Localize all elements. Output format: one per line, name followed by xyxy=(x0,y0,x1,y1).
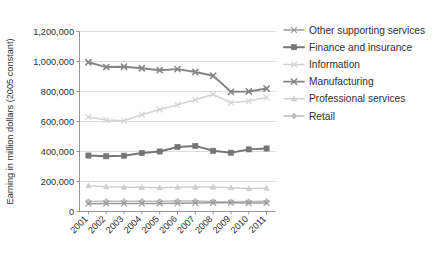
y-axis-ticks: 0200,000400,000600,000800,0001,000,0001,… xyxy=(33,27,79,217)
x-tick-label: 2002 xyxy=(86,214,108,236)
x-tick-label: 2011 xyxy=(247,214,268,235)
x-tick-label: 2010 xyxy=(229,214,251,236)
legend-label: Finance and insurance xyxy=(309,42,412,53)
data-point-marker xyxy=(211,148,216,153)
data-point-marker xyxy=(104,154,109,159)
x-tick-label: 2003 xyxy=(104,214,126,236)
y-tick-label: 1,200,000 xyxy=(33,27,74,37)
data-point-marker xyxy=(175,144,180,149)
y-tick-label: 1,000,000 xyxy=(33,57,74,67)
series-professional-services xyxy=(86,183,270,191)
line-chart: 0200,000400,000600,000800,0001,000,0001,… xyxy=(0,0,444,257)
series-line xyxy=(88,62,266,92)
y-tick-label: 600,000 xyxy=(41,117,74,127)
y-axis-title-text: Earning in million dollars (2005 constan… xyxy=(5,39,15,205)
x-tick-label: 2008 xyxy=(193,214,215,236)
series-manufacturing xyxy=(86,60,269,95)
legend-label: Retail xyxy=(309,111,335,122)
legend-item-information[interactable]: Information xyxy=(284,59,360,70)
data-point-marker xyxy=(86,153,91,158)
chart-canvas: 0200,000400,000600,000800,0001,000,0001,… xyxy=(0,0,444,257)
data-point-marker xyxy=(139,150,144,155)
x-tick-label: 2006 xyxy=(157,214,179,236)
legend-label: Other supporting services xyxy=(309,25,425,36)
data-point-marker xyxy=(210,199,216,205)
x-tick-label: 2001 xyxy=(68,214,90,236)
legend-item-other-supporting-services[interactable]: Other supporting services xyxy=(284,25,425,36)
y-tick-label: 0 xyxy=(69,207,74,217)
y-axis-title: Earning in million dollars (2005 constan… xyxy=(5,39,15,205)
y-tick-label: 800,000 xyxy=(41,87,74,97)
x-axis-ticks: 2001200220032004200520062007200820092010… xyxy=(68,212,268,236)
data-point-marker xyxy=(246,147,251,152)
series-information xyxy=(86,92,269,123)
legend-label: Professional services xyxy=(309,93,405,104)
legend-item-retail[interactable]: Retail xyxy=(284,111,335,122)
x-tick-label: 2004 xyxy=(122,214,144,236)
data-point-marker xyxy=(291,113,297,119)
legend-item-professional-services[interactable]: Professional services xyxy=(284,93,405,104)
legend-item-finance-and-insurance[interactable]: Finance and insurance xyxy=(284,42,412,53)
chart-legend: Other supporting servicesFinance and ins… xyxy=(284,25,425,122)
series-group xyxy=(85,60,269,207)
data-point-marker xyxy=(228,199,234,205)
x-tick-label: 2009 xyxy=(211,214,233,236)
series-line xyxy=(88,95,266,121)
y-tick-label: 400,000 xyxy=(41,147,74,157)
data-point-marker xyxy=(193,143,198,148)
y-tick-label: 200,000 xyxy=(41,177,74,187)
data-point-marker xyxy=(228,150,233,155)
data-point-marker xyxy=(264,146,269,151)
x-tick-label: 2007 xyxy=(175,214,197,236)
legend-item-manufacturing[interactable]: Manufacturing xyxy=(284,76,374,87)
x-tick-label: 2005 xyxy=(140,214,162,236)
data-point-marker xyxy=(291,45,296,50)
legend-label: Information xyxy=(309,59,360,70)
legend-label: Manufacturing xyxy=(309,76,374,87)
data-point-marker xyxy=(157,149,162,154)
data-point-marker xyxy=(121,153,126,158)
